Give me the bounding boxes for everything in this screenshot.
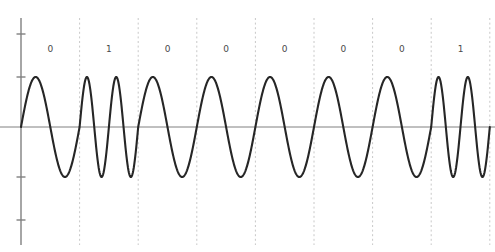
bit-label: 0 bbox=[47, 44, 53, 54]
fsk-waveform-figure: 01000001 bbox=[0, 0, 495, 252]
bit-label: 0 bbox=[282, 44, 288, 54]
bit-label: 1 bbox=[458, 44, 464, 54]
bit-label: 0 bbox=[399, 44, 405, 54]
bit-label: 0 bbox=[165, 44, 171, 54]
bit-label: 0 bbox=[223, 44, 229, 54]
y-axis-group bbox=[17, 18, 26, 245]
bit-label: 0 bbox=[340, 44, 346, 54]
bit-label: 1 bbox=[106, 44, 112, 54]
fsk-plot-canvas bbox=[0, 0, 495, 252]
